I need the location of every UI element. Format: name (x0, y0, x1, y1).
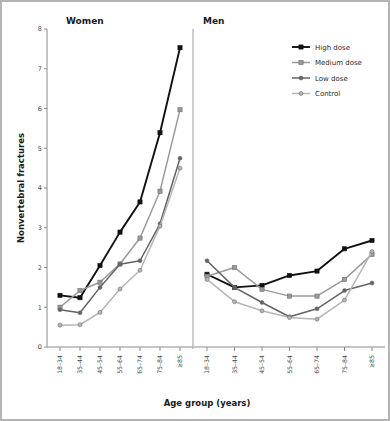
legend-label-low-dose: Low dose (315, 75, 348, 83)
data-point-control-1 (78, 323, 82, 327)
data-point-medium-dose-1 (232, 265, 236, 269)
legend-label-control: Control (315, 90, 340, 98)
x-axis-tick-label: 55–64 (286, 355, 293, 374)
data-point-control-0 (205, 277, 209, 281)
data-point-control-5 (158, 224, 162, 228)
y-axis-tick-label: 6 (38, 105, 42, 113)
x-axis-tick-label: 18–34 (203, 355, 210, 374)
data-point-low-dose-5 (343, 289, 347, 293)
x-axis-tick-label: 75–84 (341, 355, 348, 374)
data-point-high-dose-4 (315, 269, 319, 273)
data-point-medium-dose-2 (98, 280, 102, 284)
data-point-high-dose-5 (158, 131, 162, 135)
data-point-low-dose-2 (260, 300, 264, 304)
chart-canvas: 012345678Women18–3435–4445–5455–6465–747… (2, 2, 390, 421)
panel-title-men: Men (203, 16, 224, 26)
x-axis-tick-label: ≥85 (176, 355, 183, 368)
x-axis-tick-label: 45–54 (258, 355, 265, 374)
data-point-control-2 (98, 310, 102, 314)
data-point-medium-dose-1 (78, 288, 82, 292)
data-point-high-dose-6 (178, 46, 182, 50)
legend-label-high-dose: High dose (315, 44, 350, 52)
legend-marker-control (299, 92, 303, 96)
data-point-high-dose-4 (138, 200, 142, 204)
data-point-control-6 (370, 250, 374, 254)
y-axis-tick-label: 8 (38, 25, 42, 33)
data-point-medium-dose-4 (138, 236, 142, 240)
y-axis-tick-label: 3 (38, 224, 42, 232)
data-point-low-dose-6 (178, 156, 182, 160)
series-line-high-dose (60, 48, 180, 298)
data-point-medium-dose-2 (260, 287, 264, 291)
x-axis-tick-label: 75–84 (156, 355, 163, 374)
series-line-high-dose (207, 240, 372, 287)
data-point-low-dose-2 (98, 285, 102, 289)
y-axis-tick-label: 2 (38, 264, 42, 272)
data-point-high-dose-2 (260, 283, 264, 287)
data-point-high-dose-6 (370, 238, 374, 242)
data-point-low-dose-3 (118, 262, 122, 266)
data-point-control-0 (58, 323, 62, 327)
legend-label-medium-dose: Medium dose (315, 59, 362, 67)
chart-svg: 012345678Women18–3435–4445–5455–6465–747… (2, 2, 390, 421)
y-axis-tick-label: 1 (38, 304, 42, 312)
data-point-low-dose-4 (315, 307, 319, 311)
legend-marker-high-dose (299, 45, 303, 49)
data-point-high-dose-2 (98, 263, 102, 267)
figure-container: 012345678Women18–3435–4445–5455–6465–747… (0, 0, 390, 421)
legend-marker-low-dose (299, 76, 303, 80)
data-point-medium-dose-4 (315, 294, 319, 298)
data-point-control-4 (138, 268, 142, 272)
x-axis-tick-label: 65–74 (313, 355, 320, 374)
data-point-medium-dose-3 (287, 294, 291, 298)
data-point-low-dose-1 (78, 311, 82, 315)
y-axis-title: Nonvertebral fractures (16, 133, 26, 243)
y-axis-tick-label: 5 (38, 145, 42, 153)
data-point-control-3 (118, 287, 122, 291)
data-point-high-dose-3 (287, 273, 291, 277)
data-point-high-dose-5 (342, 247, 346, 251)
x-axis-tick-label: 18–34 (56, 355, 63, 374)
x-axis-tick-label: ≥85 (368, 355, 375, 368)
data-point-high-dose-1 (78, 296, 82, 300)
data-point-high-dose-3 (118, 230, 122, 234)
x-axis-tick-label: 45–54 (96, 355, 103, 374)
y-axis-tick-label: 4 (38, 184, 42, 192)
y-axis-tick-label: 0 (38, 343, 42, 351)
series-line-medium-dose (60, 110, 180, 308)
data-point-low-dose-4 (138, 259, 142, 263)
legend-marker-medium-dose (299, 60, 303, 64)
x-axis-tick-label: 55–64 (116, 355, 123, 374)
x-axis-tick-label: 65–74 (136, 355, 143, 374)
panel-title-women: Women (66, 16, 104, 26)
data-point-control-5 (343, 298, 347, 302)
data-point-medium-dose-5 (158, 189, 162, 193)
y-axis-tick-label: 7 (38, 65, 42, 73)
x-axis-title: Age group (years) (164, 398, 251, 408)
data-point-low-dose-0 (58, 308, 62, 312)
data-point-low-dose-0 (205, 259, 209, 263)
x-axis-tick-label: 35–44 (231, 355, 238, 374)
x-axis-tick-label: 35–44 (76, 355, 83, 374)
data-point-high-dose-0 (58, 293, 62, 297)
data-point-medium-dose-5 (342, 277, 346, 281)
data-point-low-dose-1 (233, 285, 237, 289)
data-point-control-1 (233, 300, 237, 304)
data-point-low-dose-6 (370, 281, 374, 285)
data-point-medium-dose-6 (178, 108, 182, 112)
data-point-control-3 (288, 316, 292, 320)
data-point-control-6 (178, 166, 182, 170)
data-point-control-4 (315, 317, 319, 321)
data-point-control-2 (260, 309, 264, 313)
